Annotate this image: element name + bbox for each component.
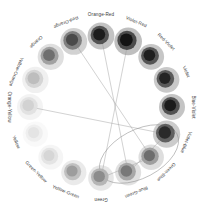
node-core xyxy=(28,127,39,138)
node-green-yellow[interactable] xyxy=(41,148,58,165)
node-core xyxy=(159,73,170,84)
node-core xyxy=(43,150,54,161)
node-label-yellow-orange: Yellow-Orange xyxy=(8,57,25,88)
node-core xyxy=(144,49,156,61)
node-label-violet: Violet xyxy=(182,65,191,79)
color-wheel-diagram: Orange-RedViolet-RedRed-VioletVioletBlue… xyxy=(0,0,204,213)
node-green[interactable] xyxy=(91,168,109,186)
node-label-yellow: Yellow xyxy=(11,135,21,150)
node-yellow[interactable] xyxy=(26,125,43,142)
node-red-violet[interactable] xyxy=(141,47,159,65)
node-core xyxy=(121,165,133,177)
node-orange-yellow[interactable] xyxy=(20,97,38,115)
node-outer-rings xyxy=(17,23,185,191)
node-core xyxy=(159,126,171,138)
node-yellow-orange[interactable] xyxy=(25,70,43,88)
node-green-blue[interactable] xyxy=(141,148,158,165)
chord-edge-2 xyxy=(101,41,128,178)
node-blue-green[interactable] xyxy=(118,163,136,181)
node-label-orange: Orange xyxy=(29,35,44,50)
node-violet-blue[interactable] xyxy=(156,124,175,143)
node-orange-red[interactable] xyxy=(91,26,109,44)
node-core xyxy=(43,49,55,61)
node-red-orange[interactable] xyxy=(63,31,82,50)
node-core xyxy=(66,165,77,176)
node-label-violet-red: Violet-Red xyxy=(125,15,148,28)
node-label-green: Green xyxy=(94,197,108,202)
node-core xyxy=(94,171,105,182)
node-label-blue-violet: Blue-Violet xyxy=(191,95,196,119)
node-orange[interactable] xyxy=(41,47,59,65)
node-core xyxy=(28,72,40,84)
node-core xyxy=(120,33,133,46)
node-core xyxy=(66,34,78,46)
node-violet-red[interactable] xyxy=(117,31,136,50)
node-label-violet-blue: Violet-Blue xyxy=(179,131,193,155)
node-core xyxy=(93,28,105,40)
node-core xyxy=(144,150,155,161)
node-label-orange-red: Orange-Red xyxy=(88,12,115,17)
node-blue-violet[interactable] xyxy=(162,97,180,115)
node-yellow-green[interactable] xyxy=(64,163,81,180)
node-label-orange-yellow: Orange-Yellow xyxy=(7,91,12,123)
node-label-blue-green: Blue-Green xyxy=(124,185,149,199)
node-core xyxy=(164,100,176,112)
node-label-yellow-green: Yellow-Green xyxy=(52,184,81,200)
chord-edge-3 xyxy=(30,107,167,134)
node-core xyxy=(22,100,34,112)
node-violet[interactable] xyxy=(157,70,175,88)
node-label-red-orange: Red-Orange xyxy=(52,15,79,30)
